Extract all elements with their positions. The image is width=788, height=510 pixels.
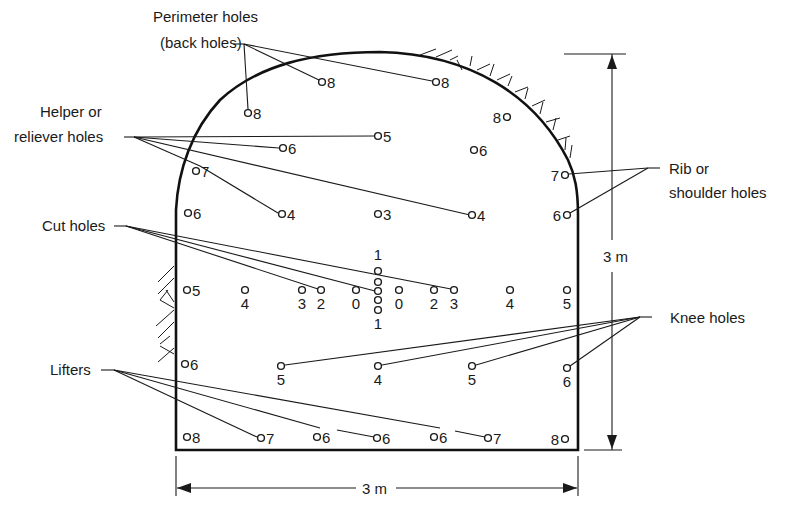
helper-hole xyxy=(564,287,571,294)
perimeter-hole xyxy=(245,110,252,117)
delay-number: 4 xyxy=(241,295,249,312)
delay-number: 6 xyxy=(563,373,571,390)
rib-hole xyxy=(564,212,571,219)
label-helper: Helper or xyxy=(40,103,102,120)
helper-hole xyxy=(469,212,476,219)
knee-hole xyxy=(564,365,571,372)
delay-number: 4 xyxy=(287,206,295,223)
cut-hole xyxy=(375,297,382,304)
lifter-hole xyxy=(485,435,492,442)
label-perimeter-holes: Perimeter holes xyxy=(153,8,258,25)
delay-number: 1 xyxy=(374,315,382,332)
cut-hole xyxy=(375,307,382,314)
delay-number: 6 xyxy=(322,429,330,446)
label-back-holes: (back holes) xyxy=(160,34,242,51)
leader-rib xyxy=(569,168,660,213)
delay-number: 6 xyxy=(288,140,296,157)
delay-number: 6 xyxy=(439,429,447,446)
delay-number: 7 xyxy=(266,430,274,447)
lifter-hole xyxy=(314,434,321,441)
delay-number: 6 xyxy=(193,205,201,222)
delay-number: 7 xyxy=(201,163,209,180)
cut-hole xyxy=(353,287,360,294)
label-shoulder-holes: shoulder holes xyxy=(669,184,767,201)
delay-number: 4 xyxy=(374,371,382,388)
leader-lifters xyxy=(101,370,485,437)
delay-number: 6 xyxy=(382,430,390,447)
knee-hole xyxy=(278,363,285,370)
helper-hole xyxy=(185,210,192,217)
knee-hole xyxy=(182,361,189,368)
delay-number: 4 xyxy=(477,207,485,224)
cut-hole xyxy=(431,287,438,294)
drill-pattern-diagram: 3 m 3 m xyxy=(0,0,788,510)
delay-number: 8 xyxy=(551,431,559,448)
cut-hole xyxy=(299,287,306,294)
perimeter-hole xyxy=(433,79,440,86)
leader-cut xyxy=(114,226,451,291)
delay-number: 3 xyxy=(383,206,391,223)
cut-hole xyxy=(375,268,382,275)
delay-number: 5 xyxy=(468,371,476,388)
delay-number: 8 xyxy=(493,109,501,126)
delay-number: 3 xyxy=(450,295,458,312)
delay-number: 8 xyxy=(327,74,335,91)
label-lifters: Lifters xyxy=(50,361,91,378)
cut-hole xyxy=(375,288,382,295)
perimeter-hole xyxy=(319,79,326,86)
knee-hole xyxy=(469,363,476,370)
label-rib: Rib or xyxy=(669,160,709,177)
lifter-hole xyxy=(184,434,191,441)
height-dimension-label: 3 m xyxy=(603,248,628,265)
label-cut-holes: Cut holes xyxy=(42,217,105,234)
cut-hole xyxy=(375,279,382,286)
width-dimension-label: 3 m xyxy=(362,480,387,497)
delay-number: 1 xyxy=(374,246,382,263)
helper-hole xyxy=(184,287,191,294)
helper-hole xyxy=(471,147,478,154)
lifter-hole xyxy=(562,436,569,443)
helper-hole xyxy=(280,145,287,152)
label-reliever-holes: reliever holes xyxy=(14,128,103,145)
delay-number: 2 xyxy=(317,295,325,312)
helper-hole xyxy=(375,211,382,218)
rock-hatching-arch xyxy=(420,49,572,158)
helper-hole xyxy=(507,287,514,294)
helper-hole xyxy=(279,211,286,218)
delay-number: 0 xyxy=(352,295,360,312)
helper-hole xyxy=(375,133,382,140)
delay-number: 2 xyxy=(430,295,438,312)
lifter-hole xyxy=(258,435,265,442)
delay-number: 8 xyxy=(253,105,261,122)
rock-hatching-wall xyxy=(156,266,174,362)
helper-hole xyxy=(242,287,249,294)
delay-number: 5 xyxy=(383,128,391,145)
label-knee-holes: Knee holes xyxy=(670,309,745,326)
delay-number: 8 xyxy=(192,429,200,446)
delay-number: 4 xyxy=(506,295,514,312)
delay-number: 6 xyxy=(190,356,198,373)
delay-number: 5 xyxy=(277,371,285,388)
perimeter-hole xyxy=(504,114,511,121)
knee-hole xyxy=(375,363,382,370)
delay-number: 7 xyxy=(493,430,501,447)
delay-number: 0 xyxy=(395,295,403,312)
delay-number: 8 xyxy=(441,74,449,91)
delay-number: 6 xyxy=(553,207,561,224)
delay-number: 5 xyxy=(563,295,571,312)
delay-number: 7 xyxy=(551,167,559,184)
delay-number: 3 xyxy=(298,295,306,312)
lifter-hole xyxy=(374,435,381,442)
cut-hole xyxy=(396,287,403,294)
cut-hole xyxy=(451,287,458,294)
delay-number: 6 xyxy=(479,142,487,159)
leader-knee xyxy=(285,317,652,366)
delay-number: 5 xyxy=(192,282,200,299)
lifter-hole xyxy=(431,434,438,441)
helper-hole xyxy=(193,168,200,175)
cut-hole xyxy=(318,287,325,294)
rib-hole xyxy=(562,172,569,179)
